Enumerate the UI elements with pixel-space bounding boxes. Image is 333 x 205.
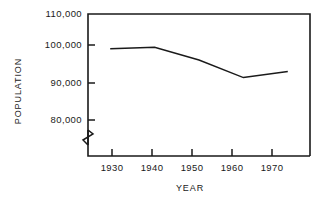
y-axis-title: POPULATION bbox=[13, 46, 23, 136]
y-tick-label-100000: 100,000 bbox=[26, 39, 82, 50]
y-tick-label-90000: 90,000 bbox=[26, 77, 82, 88]
x-tick-label-1930: 1930 bbox=[92, 162, 132, 173]
x-axis-title: YEAR bbox=[150, 183, 230, 193]
x-tick-marks bbox=[112, 149, 272, 156]
x-tick-label-1940: 1940 bbox=[132, 162, 172, 173]
axis-left-upper-top-right bbox=[88, 14, 310, 156]
x-tick-label-1960: 1960 bbox=[212, 162, 252, 173]
population-line-chart: 110,000 100,000 90,000 80,000 1930 1940 … bbox=[0, 0, 333, 205]
axis-left-lower-and-bottom bbox=[88, 130, 310, 156]
y-tick-label-80000: 80,000 bbox=[26, 114, 82, 125]
population-series-line bbox=[110, 47, 288, 77]
x-tick-label-1950: 1950 bbox=[172, 162, 212, 173]
axis-frame bbox=[88, 14, 310, 156]
x-tick-label-1970: 1970 bbox=[252, 162, 292, 173]
chart-plot-area bbox=[0, 0, 333, 205]
y-tick-label-110000: 110,000 bbox=[26, 8, 82, 19]
y-tick-marks bbox=[88, 45, 95, 120]
